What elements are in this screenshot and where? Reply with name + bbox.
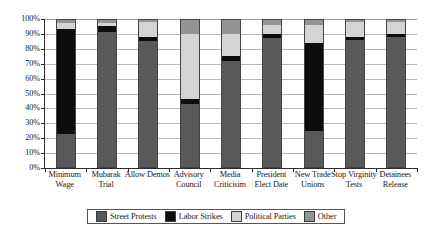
- bar-group[interactable]: [56, 19, 76, 168]
- x-axis-tick-label: Advisory Council: [166, 170, 211, 190]
- y-axis-tick-label: 0%: [4, 164, 40, 172]
- bar-segment-other[interactable]: [304, 19, 324, 25]
- legend-swatch-icon: [231, 211, 242, 222]
- bar-segment-other[interactable]: [97, 19, 117, 23]
- x-axis-tick-label: President Elect Date: [249, 170, 294, 190]
- bar-segment-political-parties[interactable]: [97, 23, 117, 26]
- bar-segment-street-protests[interactable]: [138, 41, 158, 168]
- x-axis-tick-label: New Trade Unions: [290, 170, 335, 190]
- stacked-bar[interactable]: [304, 19, 324, 168]
- bar-segment-street-protests[interactable]: [180, 104, 200, 168]
- stacked-bar[interactable]: [180, 19, 200, 168]
- bar-segment-other[interactable]: [180, 19, 200, 34]
- bar-segment-labor-strikes[interactable]: [386, 34, 406, 37]
- legend-label: Political Parties: [245, 212, 296, 221]
- y-axis-tick-label: 60%: [4, 75, 40, 83]
- bar-segment-street-protests[interactable]: [262, 38, 282, 168]
- legend-swatch-icon: [165, 211, 176, 222]
- x-axis-tick-label: Mubarak Trial: [83, 170, 128, 190]
- bar-segment-labor-strikes[interactable]: [97, 26, 117, 32]
- bar-segment-political-parties[interactable]: [386, 22, 406, 34]
- bar-segment-other[interactable]: [386, 19, 406, 22]
- y-axis-tick-label: 70%: [4, 60, 40, 68]
- y-axis-tick-label: 80%: [4, 45, 40, 53]
- bar-segment-political-parties[interactable]: [262, 25, 282, 34]
- legend-swatch-icon: [304, 211, 315, 222]
- y-axis-tick-label: 10%: [4, 149, 40, 157]
- y-axis-tick-label: 50%: [4, 90, 40, 98]
- bar-segment-street-protests[interactable]: [345, 40, 365, 168]
- plot-area: [44, 19, 417, 169]
- bar-segment-street-protests[interactable]: [221, 61, 241, 168]
- bar-segment-labor-strikes[interactable]: [304, 43, 324, 131]
- legend-label: Labor Strikes: [179, 212, 223, 221]
- bar-segment-political-parties[interactable]: [221, 34, 241, 56]
- y-axis-tick-label: 30%: [4, 119, 40, 127]
- legend-item[interactable]: Political Parties: [231, 211, 296, 222]
- legend-item[interactable]: Other: [304, 211, 337, 222]
- bar-segment-political-parties[interactable]: [180, 34, 200, 100]
- bar-group[interactable]: [97, 19, 117, 168]
- stacked-bar[interactable]: [56, 19, 76, 168]
- bar-segment-other[interactable]: [221, 19, 241, 34]
- bar-segment-other[interactable]: [138, 19, 158, 22]
- stacked-bar[interactable]: [386, 19, 406, 168]
- y-axis-tick-label: 90%: [4, 30, 40, 38]
- x-axis-tick-label: Detainees Release: [373, 170, 418, 190]
- bar-segment-street-protests[interactable]: [386, 37, 406, 168]
- bar-group[interactable]: [180, 19, 200, 168]
- legend-item[interactable]: Street Protests: [96, 211, 157, 222]
- bar-segment-other[interactable]: [262, 19, 282, 25]
- legend-item[interactable]: Labor Strikes: [165, 211, 223, 222]
- stacked-bar[interactable]: [262, 19, 282, 168]
- bar-segment-labor-strikes[interactable]: [262, 34, 282, 38]
- x-axis-tick-label: Allow Demos: [125, 170, 170, 180]
- bar-segment-political-parties[interactable]: [345, 22, 365, 37]
- bar-series-container: [45, 19, 417, 168]
- bar-group[interactable]: [345, 19, 365, 168]
- bar-segment-street-protests[interactable]: [304, 131, 324, 168]
- x-axis-tick-label: Minimum Wage: [42, 170, 87, 190]
- stacked-bar[interactable]: [138, 19, 158, 168]
- y-axis-tick-label: 20%: [4, 134, 40, 142]
- bar-group[interactable]: [138, 19, 158, 168]
- bar-segment-other[interactable]: [56, 19, 76, 23]
- stacked-bar-chart: 0%10%20%30%40%50%60%70%80%90%100% Minimu…: [0, 0, 426, 235]
- y-axis-tick-label: 100%: [4, 15, 40, 23]
- bar-group[interactable]: [386, 19, 406, 168]
- bar-segment-political-parties[interactable]: [138, 22, 158, 37]
- bar-segment-other[interactable]: [345, 19, 365, 22]
- bar-segment-political-parties[interactable]: [56, 23, 76, 29]
- bar-segment-labor-strikes[interactable]: [345, 37, 365, 40]
- bar-group[interactable]: [262, 19, 282, 168]
- stacked-bar[interactable]: [97, 19, 117, 168]
- bar-group[interactable]: [221, 19, 241, 168]
- x-axis-tick-label: Stop Virginity Tests: [331, 170, 376, 190]
- chart-legend: Street ProtestsLabor StrikesPolitical Pa…: [87, 209, 345, 224]
- y-axis-tick-label: 40%: [4, 104, 40, 112]
- bar-group[interactable]: [304, 19, 324, 168]
- bar-segment-labor-strikes[interactable]: [180, 99, 200, 103]
- x-axis-tick-label: Media Criticisim: [207, 170, 252, 190]
- bar-segment-labor-strikes[interactable]: [221, 56, 241, 60]
- stacked-bar[interactable]: [345, 19, 365, 168]
- x-axis: Minimum WageMubarak TrialAllow DemosAdvi…: [44, 170, 416, 210]
- legend-label: Other: [318, 212, 337, 221]
- bar-segment-labor-strikes[interactable]: [56, 29, 76, 133]
- legend-label: Street Protests: [110, 212, 157, 221]
- stacked-bar[interactable]: [221, 19, 241, 168]
- bar-segment-labor-strikes[interactable]: [138, 37, 158, 41]
- legend-swatch-icon: [96, 211, 107, 222]
- bar-segment-street-protests[interactable]: [97, 32, 117, 168]
- bar-segment-political-parties[interactable]: [304, 25, 324, 43]
- y-axis: 0%10%20%30%40%50%60%70%80%90%100%: [4, 13, 40, 169]
- bar-segment-street-protests[interactable]: [56, 134, 76, 168]
